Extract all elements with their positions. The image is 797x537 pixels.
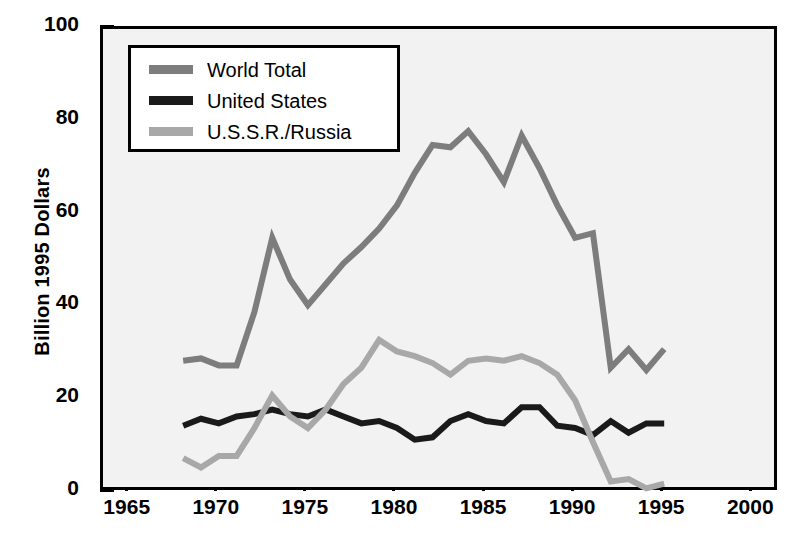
y-axis-title: Billion 1995 Dollars [31,32,54,492]
x-tick-label: 1995 [616,495,706,519]
legend-label-united-states: United States [207,91,327,111]
x-tick-label: 1970 [171,495,261,519]
x-tick-label: 1965 [82,495,172,519]
series-line [183,131,664,370]
legend-swatch-united-states [149,96,193,105]
x-tick-label: 2000 [705,495,795,519]
legend-label-world-total: World Total [207,60,306,80]
legend-swatch-world-total [149,65,193,74]
y-tick-label: 100 [0,12,79,36]
x-tick-label: 1985 [438,495,528,519]
x-tick-label: 1990 [527,495,617,519]
legend-item-ussr-russia: U.S.S.R./Russia [131,116,397,147]
legend-item-united-states: United States [131,85,397,116]
legend-item-world-total: World Total [131,54,397,85]
y-tick-label: 80 [0,105,79,129]
line-chart: Billion 1995 Dollars 020406080100 196519… [0,0,797,537]
legend-swatch-ussr-russia [149,127,193,136]
y-tick-label: 60 [0,198,79,222]
y-tick-label: 0 [0,476,79,500]
chart-legend: World Total United States U.S.S.R./Russi… [128,45,400,152]
y-tick-label: 40 [0,290,79,314]
y-tick-label: 20 [0,383,79,407]
x-tick-label: 1980 [349,495,439,519]
x-tick-label: 1975 [260,495,350,519]
legend-label-ussr-russia: U.S.S.R./Russia [207,122,351,142]
